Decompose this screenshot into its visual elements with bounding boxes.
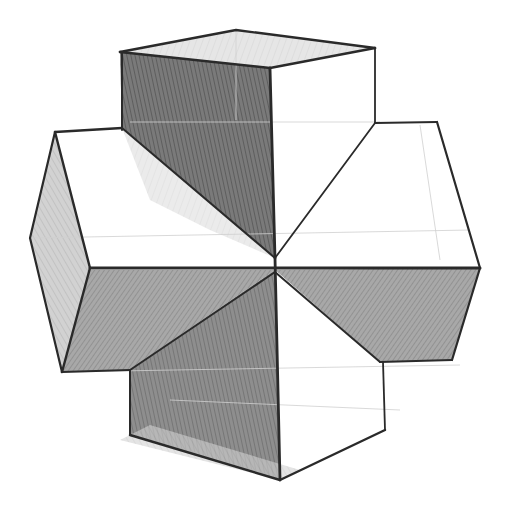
cropped-caption-strip bbox=[40, 500, 510, 509]
pencil-sketch-canvas bbox=[0, 0, 519, 509]
